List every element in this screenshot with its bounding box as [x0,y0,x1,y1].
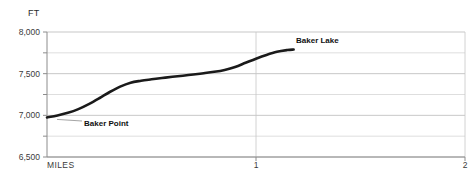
data-series [47,50,294,118]
annotation-leader-lines [57,119,82,121]
tick-marks [43,32,465,161]
annotation-baker-lake: Baker Lake [296,36,339,45]
elevation-profile-chart: FT 8,0007,5007,0006,500 MILES Baker Lake… [0,0,473,181]
gridlines [47,32,465,157]
x-tick-label-2: 2 [463,160,468,170]
annotation-baker-point: Baker Point [84,119,128,128]
plot-area [0,0,473,181]
x-tick-label-1: 1 [254,160,259,170]
